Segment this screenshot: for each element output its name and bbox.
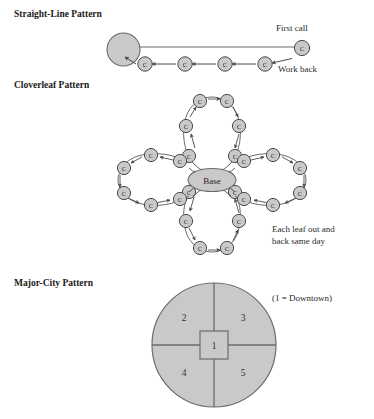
cloverleaf-node: C [179, 119, 192, 132]
cloverleaf-node: C [144, 148, 157, 161]
quadrant-label-upper-right: 3 [241, 313, 246, 323]
label-downtown-key: (1 = Downtown) [272, 293, 332, 303]
label-first-call: First call [276, 23, 308, 33]
cloverleaf-node: C [117, 186, 130, 199]
call-node-label: C [178, 196, 182, 203]
heading-cloverleaf: Cloverleaf Pattern [14, 80, 90, 90]
cloverleaf-node: C [173, 192, 186, 205]
call-node-label: C [122, 165, 126, 172]
call-node-label: C [149, 202, 153, 209]
call-node-label: C [237, 123, 241, 130]
cloverleaf-node: C [144, 198, 157, 211]
label-leaf-note-line1: Each leaf out and [272, 224, 335, 234]
straight-line-node-3: C [218, 57, 232, 71]
cloverleaf-node: C [266, 198, 279, 211]
call-node-label: C [237, 218, 241, 225]
cloverleaf-node: C [220, 94, 233, 107]
downtown-label: 1 [212, 341, 217, 351]
cloverleaf-node: C [220, 241, 233, 254]
call-node-label: C [178, 158, 182, 165]
label-work-back: Work back [278, 64, 318, 74]
cloverleaf-node: C [293, 161, 306, 174]
quadrant-label-upper-left: 2 [182, 313, 187, 323]
cloverleaf-node: C [193, 241, 206, 254]
call-node-label: C [233, 189, 237, 196]
base-label: Base [203, 176, 221, 186]
call-node-label: C [242, 158, 246, 165]
call-node-label: C [263, 61, 267, 68]
cloverleaf-node: C [232, 214, 245, 227]
call-node-label: C [298, 165, 302, 172]
cloverleaf-base: Base [188, 169, 236, 192]
straight-line-node-first-call: C [294, 40, 309, 55]
call-node-label: C [198, 98, 202, 105]
straight-line-node-2: C [178, 57, 192, 71]
call-node-label: C [233, 153, 237, 160]
quadrant-label-lower-right: 5 [241, 368, 246, 378]
call-node-label: C [298, 190, 302, 197]
label-leaf-note-line2: back same day [272, 236, 325, 246]
call-node-label: C [198, 245, 202, 252]
straight-line-node-4: C [258, 57, 272, 71]
call-node-label: C [187, 153, 191, 160]
call-node-label: C [271, 202, 275, 209]
call-node-label: C [122, 190, 126, 197]
cloverleaf-node: C [232, 119, 245, 132]
cloverleaf-node: C [179, 214, 192, 227]
heading-straight-line: Straight-Line Pattern [14, 9, 103, 19]
cloverleaf-node: C [266, 148, 279, 161]
call-node-label: C [143, 61, 147, 68]
call-node-label: C [242, 196, 246, 203]
straight-line-node-1: C [138, 57, 152, 71]
call-node-label: C [149, 152, 153, 159]
cloverleaf-node: C [293, 186, 306, 199]
cloverleaf-node: C [173, 154, 186, 167]
downtown-zone: 1 [200, 331, 228, 359]
heading-major-city: Major-City Pattern [14, 278, 94, 288]
call-node-label: C [300, 45, 304, 52]
quadrant-label-lower-left: 4 [182, 368, 187, 378]
call-node-label: C [225, 98, 229, 105]
call-node-label: C [183, 61, 187, 68]
cloverleaf-node: C [237, 192, 250, 205]
straight-line-base-circle [107, 33, 140, 66]
call-node-label: C [184, 123, 188, 130]
cloverleaf-node: C [117, 161, 130, 174]
call-node-label: C [187, 189, 191, 196]
call-node-label: C [184, 218, 188, 225]
call-node-label: C [271, 152, 275, 159]
cloverleaf-node: C [193, 94, 206, 107]
call-node-label: C [223, 61, 227, 68]
call-node-label: C [225, 245, 229, 252]
territory-routing-patterns-figure: Straight-Line Pattern C C C C [0, 0, 374, 419]
cloverleaf-node: C [237, 154, 250, 167]
